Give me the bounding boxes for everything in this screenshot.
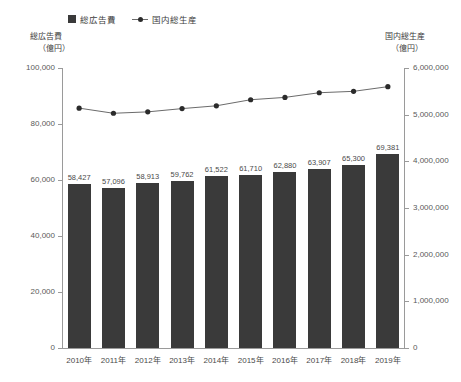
left-tick [58,236,62,237]
x-axis-label: 2013年 [165,354,199,365]
left-tick [58,124,62,125]
x-axis-line [62,348,405,349]
x-axis-label: 2017年 [302,354,336,365]
line-marker [111,111,116,116]
line-marker [282,95,287,100]
left-tick [58,68,62,69]
bar-value-label: 57,096 [96,177,130,186]
right-tick [405,208,409,209]
legend-label-bar-series: 総広告費 [80,13,116,25]
x-axis-label: 2014年 [199,354,233,365]
right-tick-label: 6,000,000 [413,63,449,72]
left-tick-label: 0 [51,343,55,352]
bar [205,176,228,348]
bar-value-label: 58,913 [131,172,165,181]
line-marker [179,106,184,111]
left-tick-label: 40,000 [31,231,55,240]
bar-value-label: 61,522 [199,165,233,174]
right-tick-label: 5,000,000 [413,110,449,119]
bar [68,184,91,348]
right-axis-unit: （億円） [385,43,425,55]
right-tick [405,255,409,256]
left-tick-label: 100,000 [26,63,55,72]
x-axis-label: 2018年 [336,354,370,365]
bar [239,175,262,348]
right-tick [405,115,409,116]
right-tick-label: 2,000,000 [413,250,449,259]
x-axis-label: 2019年 [371,354,405,365]
left-axis-title: 総広告費 [30,32,62,41]
bar-value-label: 58,427 [62,173,96,182]
bar-value-label: 59,762 [165,170,199,179]
line-path [79,87,388,114]
x-axis-label: 2010年 [62,354,96,365]
legend-label-line-series: 国内総生産 [152,13,197,25]
x-axis-label: 2011年 [96,354,130,365]
legend-item-bar-series: 総広告費 [68,13,116,25]
line-marker [145,109,150,114]
bar [136,183,159,348]
line-marker [385,84,390,89]
x-axis-label: 2012年 [131,354,165,365]
line-marker [214,103,219,108]
right-axis-title: 国内総生産 [385,32,425,41]
bar-value-label: 69,381 [371,143,405,152]
bar [376,154,399,348]
plot-area: 020,00040,00060,00080,000100,000 01,000,… [62,68,405,348]
chart-legend: 総広告費 国内総生産 [68,13,197,25]
left-axis-caption: 総広告費 （億円） [30,31,70,54]
line-marker [77,106,82,111]
right-axis-caption: 国内総生産 （億円） [385,31,425,54]
left-axis-line [62,68,63,348]
bar-value-label: 65,300 [336,154,370,163]
right-tick [405,161,409,162]
line-marker-icon [132,15,148,23]
right-tick [405,68,409,69]
bar-value-label: 63,907 [302,158,336,167]
right-tick [405,348,409,349]
line-marker [317,90,322,95]
left-tick-label: 60,000 [31,175,55,184]
right-tick-label: 1,000,000 [413,296,449,305]
right-tick-label: 3,000,000 [413,203,449,212]
bar-value-label: 62,880 [268,161,302,170]
x-axis-label: 2015年 [234,354,268,365]
legend-item-line-series: 国内総生産 [132,13,197,25]
bar [342,165,365,348]
line-marker [248,97,253,102]
square-swatch-icon [68,15,76,23]
left-tick-label: 20,000 [31,287,55,296]
bar [102,188,125,348]
left-tick [58,292,62,293]
x-axis-label: 2016年 [268,354,302,365]
left-tick [58,348,62,349]
bar [308,169,331,348]
advertising-gdp-chart: 総広告費 国内総生産 総広告費 （億円） 国内総生産 （億円） 020,0004… [0,0,461,382]
bar-value-label: 61,710 [234,164,268,173]
left-tick-label: 80,000 [31,119,55,128]
right-tick-label: 0 [413,343,417,352]
bar [273,172,296,348]
right-tick [405,301,409,302]
bar [171,181,194,348]
left-axis-unit: （億円） [30,43,70,55]
right-tick-label: 4,000,000 [413,156,449,165]
line-marker [351,89,356,94]
